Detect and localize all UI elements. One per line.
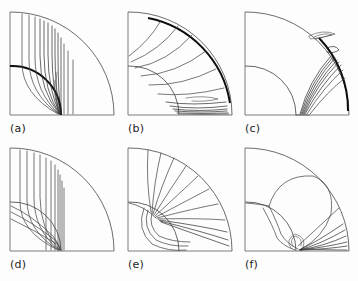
panel-f-axes xyxy=(245,148,349,251)
panel-e-inner-surface xyxy=(128,202,179,251)
panel-e-plot xyxy=(126,146,236,258)
panel-c-inner-surface xyxy=(245,66,296,115)
panel-d-plot xyxy=(8,146,118,258)
panel-a-label: (a) xyxy=(10,122,26,135)
panel-a: (a) xyxy=(8,10,118,146)
panel-a-field-lines xyxy=(22,14,73,114)
panel-c-shock-front xyxy=(319,38,348,111)
panel-e-axes xyxy=(128,148,232,251)
panel-b-inner-surface xyxy=(128,66,179,115)
panel-f-outer-boundary xyxy=(245,148,349,251)
panel-d-label: (d) xyxy=(10,258,26,271)
panel-b-plot xyxy=(126,10,236,122)
panel-b-label: (b) xyxy=(128,122,144,135)
panel-a-axes xyxy=(10,12,114,115)
panel-e-outer-boundary xyxy=(128,148,232,251)
panel-e: (e) xyxy=(126,146,236,281)
panel-f-plot xyxy=(243,146,353,258)
panel-b: (b) xyxy=(126,10,236,146)
panel-d: (d) xyxy=(8,146,118,281)
panel-f-field-lines xyxy=(246,176,347,250)
panel-d-field-lines xyxy=(11,150,64,250)
panel-a-inner-surface xyxy=(10,66,61,115)
panel-f: (f) xyxy=(243,146,353,281)
panel-a-plot xyxy=(8,10,118,122)
panel-e-field-lines xyxy=(129,150,229,250)
figure-panel-grid: (a) (b) xyxy=(0,0,358,281)
panel-a-outer-boundary xyxy=(10,12,114,115)
panel-e-label: (e) xyxy=(128,258,144,271)
panel-c: (c) xyxy=(243,10,353,146)
panel-f-label: (f) xyxy=(245,258,258,271)
panel-c-plot xyxy=(243,10,353,122)
panel-c-label: (c) xyxy=(245,122,260,135)
